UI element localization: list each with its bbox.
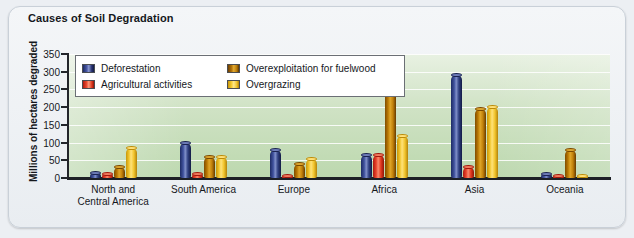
gridline	[68, 107, 610, 108]
deforestation-swatch	[82, 64, 95, 73]
bar-cap	[126, 146, 137, 150]
y-axis-tick-label: 250	[30, 84, 60, 95]
bar-cap	[204, 155, 215, 159]
bar-cap	[90, 171, 101, 175]
y-axis-tick	[61, 124, 68, 126]
bar-overgrazing	[577, 176, 588, 178]
bar-cap	[270, 148, 281, 152]
bar-cap	[373, 153, 384, 157]
y-axis-tick-labels: 050100150200250300350	[26, 0, 60, 238]
overgrazing-swatch	[227, 80, 240, 89]
y-axis-tick-label: 350	[30, 49, 60, 60]
y-axis-tick	[61, 159, 68, 161]
legend-label: Deforestation	[101, 63, 160, 74]
bar-cap	[541, 172, 552, 176]
bar-agricultural-activities	[102, 174, 113, 178]
overexploitation-swatch	[227, 64, 240, 73]
bar-deforestation	[270, 150, 281, 178]
y-axis-tick-label: 200	[30, 102, 60, 113]
legend-label: Overexploitation for fuelwood	[246, 63, 376, 74]
bar-deforestation	[451, 75, 462, 178]
y-axis-tick	[61, 142, 68, 144]
bar-cap	[565, 148, 576, 152]
x-axis-group-label: South America	[171, 184, 236, 196]
bar-deforestation	[90, 173, 101, 178]
bar-agricultural-activities	[463, 167, 474, 178]
legend-label: Agricultural activities	[101, 79, 192, 90]
bar-cap	[361, 153, 372, 157]
y-axis-tick-label: 0	[30, 173, 60, 184]
bar-cap	[282, 174, 293, 178]
bar-cap	[180, 141, 191, 145]
bar-overexploitation-for-fuelwood	[565, 150, 576, 178]
y-axis-tick-label: 100	[30, 137, 60, 148]
x-axis-group-label: Asia	[465, 184, 484, 196]
bar-cap	[463, 165, 474, 169]
legend-item[interactable]: Overgrazing	[227, 79, 412, 90]
bar-overgrazing	[306, 159, 317, 178]
bar-overexploitation-for-fuelwood	[114, 167, 125, 178]
y-axis-tick	[61, 71, 68, 73]
bar-cap	[114, 165, 125, 169]
chart-legend: DeforestationOverexploitation for fuelwo…	[75, 55, 405, 97]
legend-item[interactable]: Overexploitation for fuelwood	[227, 63, 412, 74]
bar-deforestation	[180, 143, 191, 178]
bar-overexploitation-for-fuelwood	[475, 109, 486, 178]
bar-cap	[306, 157, 317, 161]
legend-item[interactable]: Deforestation	[82, 63, 227, 74]
bar-cap	[487, 105, 498, 109]
bar-deforestation	[361, 155, 372, 178]
bar-cap	[553, 174, 564, 178]
bar-overgrazing	[126, 148, 137, 178]
gridline	[68, 125, 610, 126]
y-axis-tick-label: 300	[30, 66, 60, 77]
bar-cap	[192, 172, 203, 176]
bar-cap	[577, 174, 588, 178]
x-axis-group-label: North and Central America	[78, 184, 149, 208]
bar-overexploitation-for-fuelwood	[294, 164, 305, 178]
legend-item[interactable]: Agricultural activities	[82, 79, 227, 90]
bar-cap	[102, 172, 113, 176]
y-axis-tick-label: 150	[30, 119, 60, 130]
bar-agricultural-activities	[553, 176, 564, 178]
bar-deforestation	[541, 174, 552, 178]
bar-cap	[451, 73, 462, 77]
bar-overgrazing	[487, 107, 498, 178]
y-axis-tick-label: 50	[30, 155, 60, 166]
y-axis-tick	[61, 53, 68, 55]
bar-cap	[216, 155, 227, 159]
x-axis-group-label: Africa	[371, 184, 397, 196]
y-axis-tick	[61, 106, 68, 108]
chart-figure: Causes of Soil Degradation Millions of h…	[0, 0, 634, 238]
bar-overexploitation-for-fuelwood	[204, 157, 215, 178]
bar-agricultural-activities	[192, 174, 203, 178]
bar-overgrazing	[216, 157, 227, 178]
bar-cap	[294, 162, 305, 166]
y-axis-tick	[61, 88, 68, 90]
bar-cap	[475, 107, 486, 111]
gridline	[68, 160, 610, 161]
bar-agricultural-activities	[373, 155, 384, 178]
x-axis-group-label: Oceania	[546, 184, 583, 196]
agricultural-swatch	[82, 80, 95, 89]
bar-agricultural-activities	[282, 176, 293, 178]
bar-overexploitation-for-fuelwood	[385, 91, 396, 178]
x-axis-line	[67, 177, 611, 180]
y-axis-tick	[61, 177, 68, 179]
bar-overgrazing	[397, 136, 408, 179]
x-axis-group-label: Europe	[278, 184, 310, 196]
bar-cap	[397, 134, 408, 138]
legend-label: Overgrazing	[246, 79, 300, 90]
gridline	[68, 143, 610, 144]
